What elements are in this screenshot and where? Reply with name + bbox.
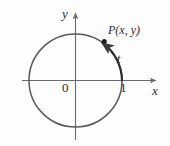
terminal-point-marker — [102, 39, 107, 44]
unit-circle-canvas — [0, 0, 170, 146]
unit-circle-figure: y x 0 1 t P(x, y) — [0, 0, 170, 146]
arc-length-t-path — [103, 43, 122, 80]
